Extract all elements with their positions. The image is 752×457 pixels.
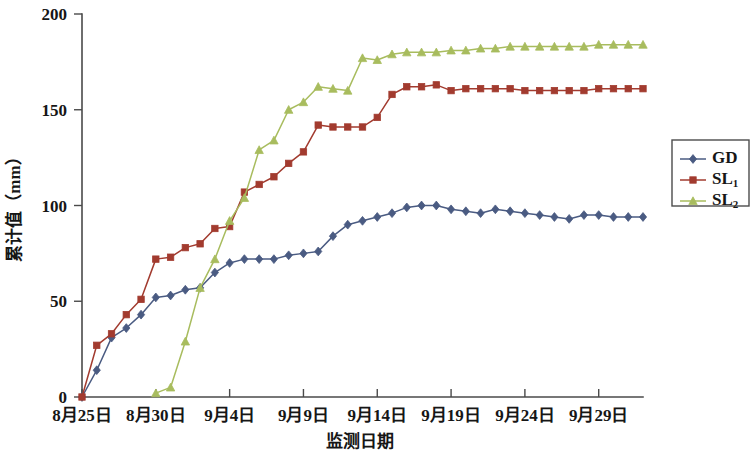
data-point	[123, 311, 129, 317]
data-point	[492, 85, 498, 91]
x-axis-title: 监测日期	[326, 431, 394, 451]
legend-label-subscript: 2	[733, 198, 739, 210]
data-point	[389, 91, 395, 97]
y-tick-label: 50	[50, 292, 67, 311]
legend-marker-square-icon	[690, 177, 696, 183]
data-point	[448, 87, 454, 93]
data-point	[566, 87, 572, 93]
data-point	[315, 122, 321, 128]
line-chart-figure: 050100150200 8月25日8月30日9月4日9月9日9月14日9月19…	[0, 0, 752, 457]
x-tick-label: 9月4日	[204, 406, 255, 425]
data-point	[79, 394, 85, 400]
data-point	[285, 160, 291, 166]
x-tick-label: 9月9日	[278, 406, 329, 425]
data-point	[418, 84, 424, 90]
legend-label: GD	[712, 148, 738, 167]
data-point	[581, 87, 587, 93]
data-point	[551, 87, 557, 93]
y-tick-label: 150	[42, 101, 68, 120]
x-tick-label: 8月30日	[126, 406, 186, 425]
data-point	[433, 82, 439, 88]
data-point	[404, 84, 410, 90]
chart-background	[0, 0, 752, 457]
y-axis-title: 累计值（mm）	[4, 148, 24, 261]
x-tick-label: 9月29日	[569, 406, 629, 425]
x-tick-label: 9月14日	[348, 406, 408, 425]
data-point	[640, 85, 646, 91]
data-point	[108, 331, 114, 337]
data-point	[625, 85, 631, 91]
chart-legend: GDSL1SL2	[672, 140, 749, 210]
data-point	[330, 124, 336, 130]
data-point	[596, 85, 602, 91]
data-point	[212, 225, 218, 231]
data-point	[374, 114, 380, 120]
data-point	[153, 256, 159, 262]
y-tick-label: 0	[59, 388, 68, 407]
x-tick-label: 9月24日	[495, 406, 555, 425]
data-point	[610, 85, 616, 91]
data-point	[477, 85, 483, 91]
data-point	[345, 124, 351, 130]
data-point	[138, 296, 144, 302]
data-point	[359, 124, 365, 130]
data-point	[536, 87, 542, 93]
x-tick-label: 8月25日	[52, 406, 112, 425]
data-point	[167, 254, 173, 260]
x-tick-label: 9月19日	[421, 406, 481, 425]
data-point	[94, 342, 100, 348]
data-point	[271, 174, 277, 180]
data-point	[182, 244, 188, 250]
y-tick-label: 100	[42, 197, 68, 216]
y-tick-label: 200	[42, 5, 68, 24]
data-point	[507, 85, 513, 91]
data-point	[256, 181, 262, 187]
data-point	[197, 241, 203, 247]
legend-label-subscript: 1	[733, 177, 739, 189]
data-point	[463, 85, 469, 91]
data-point	[300, 149, 306, 155]
data-point	[522, 87, 528, 93]
